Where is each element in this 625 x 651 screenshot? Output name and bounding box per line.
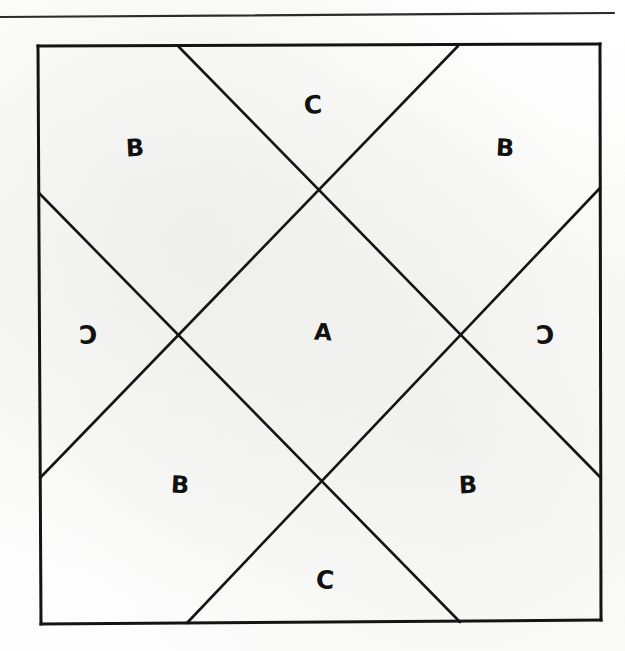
diagonal-top-left-to-right-edge (178, 46, 601, 478)
label-a-center: A (313, 319, 332, 346)
square-edge-top (38, 44, 600, 46)
label-c-left: C (78, 320, 97, 350)
label-b-bottom-left: B (170, 471, 190, 500)
label-b-top-right: B (495, 134, 515, 163)
label-b-top-left: B (125, 134, 145, 163)
scanned-page: ABBBBCCCC (0, 0, 625, 651)
square-edge-left (38, 46, 41, 624)
label-c-right: C (535, 320, 554, 350)
label-c-top: C (303, 90, 323, 120)
label-c-bottom: C (315, 565, 335, 595)
square-edge-bottom (41, 620, 601, 624)
horizontal-rule (0, 13, 614, 17)
diagonal-top-right-to-left-edge (40, 46, 458, 478)
label-b-bottom-right: B (458, 471, 478, 500)
square-edge-right (600, 44, 601, 620)
